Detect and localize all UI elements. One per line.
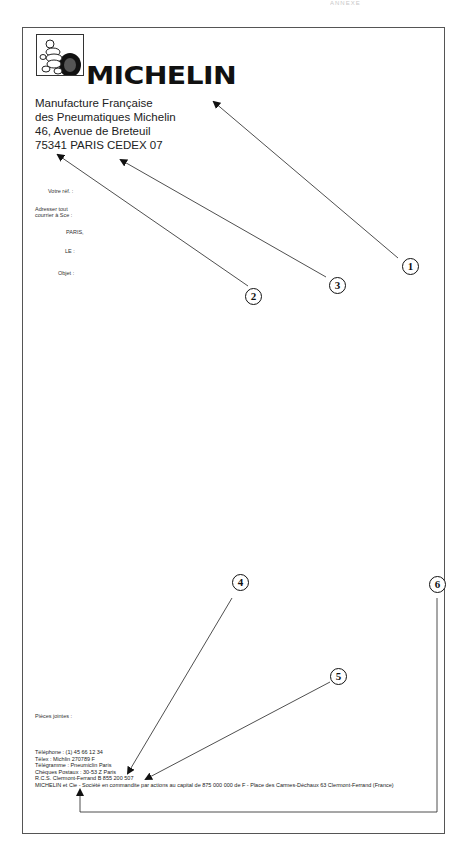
callout-arrows [0, 0, 466, 866]
callout-1: 1 [402, 258, 419, 275]
callout-2: 2 [245, 288, 262, 305]
callout-5: 5 [330, 668, 347, 685]
arrow-1 [214, 102, 398, 258]
arrow-3 [121, 160, 326, 277]
arrow-4 [128, 598, 232, 773]
callout-4: 4 [232, 574, 249, 591]
callout-3: 3 [329, 277, 346, 294]
callout-6: 6 [429, 576, 446, 593]
arrow-2 [58, 155, 248, 286]
arrow-6 [80, 598, 437, 812]
